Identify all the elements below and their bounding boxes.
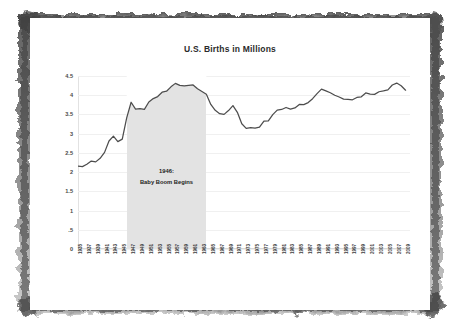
y-axis-tick-label: 1.5 xyxy=(65,188,73,194)
y-axis-tick-label: 4 xyxy=(70,92,73,98)
x-axis-tick-label: 1935 xyxy=(78,244,83,254)
x-axis-tick-label: 2009 xyxy=(406,244,411,254)
x-axis-tick-label: 1985 xyxy=(299,244,304,254)
x-axis-tick-label: 1963 xyxy=(202,244,207,254)
x-axis-tick-label: 1955 xyxy=(167,244,172,254)
x-axis-tick-label: 2003 xyxy=(379,244,384,254)
x-axis-tick-label: 1995 xyxy=(344,244,349,254)
x-axis-tick-label: 1997 xyxy=(352,244,357,254)
x-axis-tick-label: 1949 xyxy=(140,244,145,254)
x-axis-tick-label: 2001 xyxy=(370,244,375,254)
x-axis-tick-label: 1957 xyxy=(175,244,180,254)
x-axis-tick-label: 1967 xyxy=(220,244,225,254)
x-axis-tick-label: 2007 xyxy=(397,244,402,254)
x-axis-tick-labels: 1935193719391941194319451947194919511953… xyxy=(78,249,410,285)
x-axis-tick-label: 1951 xyxy=(149,244,154,254)
x-axis-tick-label: 1975 xyxy=(255,244,260,254)
y-axis-tick-label: 3 xyxy=(70,131,73,137)
x-axis-tick-label: 1977 xyxy=(264,244,269,254)
x-axis-tick-label: 1959 xyxy=(184,244,189,254)
y-axis-tick-label: .5 xyxy=(68,227,73,233)
x-axis-tick-label: 1971 xyxy=(237,244,242,254)
x-axis-tick-label: 1987 xyxy=(308,244,313,254)
births-line-series xyxy=(78,76,410,249)
x-axis-tick-label: 1961 xyxy=(193,244,198,254)
x-axis-tick-label: 1947 xyxy=(131,244,136,254)
x-axis-tick-label: 1983 xyxy=(290,244,295,254)
x-axis-tick-label: 1937 xyxy=(87,244,92,254)
y-axis-tick-label: 2.5 xyxy=(65,150,73,156)
x-axis-tick-label: 1999 xyxy=(361,244,366,254)
x-axis-tick-label: 1943 xyxy=(113,244,118,254)
x-axis-tick-label: 1993 xyxy=(335,244,340,254)
x-axis-tick-label: 1991 xyxy=(326,244,331,254)
x-axis-tick-label: 1965 xyxy=(211,244,216,254)
x-axis-tick-label: 1973 xyxy=(246,244,251,254)
y-axis-tick-label: 1 xyxy=(70,208,73,214)
x-axis-tick-label: 1939 xyxy=(96,244,101,254)
x-axis-tick-label: 1989 xyxy=(317,244,322,254)
y-axis-tick-label: 3.5 xyxy=(65,111,73,117)
y-axis-tick-label: 4.5 xyxy=(65,73,73,79)
x-axis-tick-label: 1945 xyxy=(122,244,127,254)
chart-page: U.S. Births in Millions 0.511.522.533.54… xyxy=(30,18,430,310)
x-axis-tick-label: 1941 xyxy=(105,244,110,254)
chart-title: U.S. Births in Millions xyxy=(30,44,430,54)
x-axis-tick-label: 2005 xyxy=(388,244,393,254)
plot-area: 0.511.522.533.544.51946:Baby Boom Begins xyxy=(78,76,410,249)
x-axis-tick-label: 1981 xyxy=(282,244,287,254)
y-axis-tick-label: 2 xyxy=(70,169,73,175)
chart-screenshot: U.S. Births in Millions 0.511.522.533.54… xyxy=(0,0,461,328)
x-axis-tick-label: 1979 xyxy=(273,244,278,254)
y-axis-tick-label: 0 xyxy=(70,246,73,252)
x-axis-tick-label: 1969 xyxy=(229,244,234,254)
x-axis-tick-label: 1953 xyxy=(158,244,163,254)
